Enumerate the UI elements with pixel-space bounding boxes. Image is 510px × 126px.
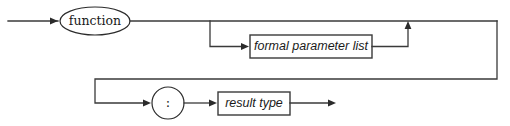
node-function-label: function <box>69 13 121 28</box>
colon-entry-arrowhead <box>143 100 151 107</box>
syntax-diagram-canvas: function formal parameter list : result … <box>0 0 510 126</box>
node-formal-parameter-list-label: formal parameter list <box>254 39 368 53</box>
exit-arrowhead <box>328 100 336 107</box>
row-wrap-connector <box>95 21 497 103</box>
branch-down-to-parameter-list <box>210 21 244 47</box>
parameter-list-entry-arrowhead <box>241 43 249 50</box>
node-colon-label: : <box>166 95 170 110</box>
entry-arrowhead <box>50 18 58 25</box>
result-type-entry-arrowhead <box>209 100 217 107</box>
railroad-diagram-svg: function formal parameter list : result … <box>0 0 510 126</box>
parameter-list-to-merge-line <box>372 27 408 47</box>
node-result-type-label: result type <box>225 96 283 110</box>
merge-arrowhead-up <box>405 21 412 29</box>
